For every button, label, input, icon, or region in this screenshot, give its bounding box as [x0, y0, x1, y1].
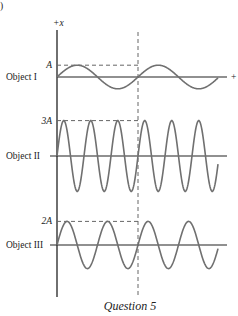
object-label: Object I	[6, 72, 37, 82]
corner-mark: )	[0, 1, 3, 12]
amplitude-label: 3A	[40, 116, 52, 126]
object-label: Object II	[6, 151, 40, 161]
oscillation-diagram: ) +x AObject I3AObject II2AObject III + …	[0, 0, 238, 316]
object-graph-2: 3AObject II	[6, 116, 227, 192]
object-graph-1: AObject I	[6, 60, 227, 89]
horizontal-axis-label: +	[231, 72, 236, 82]
amplitude-label: 2A	[41, 216, 52, 226]
object-label: Object III	[6, 240, 43, 250]
amplitude-label: A	[45, 60, 52, 70]
vertical-axis-label: +x	[53, 18, 64, 28]
caption: Question 5	[104, 299, 156, 313]
object-graph-3: 2AObject III	[6, 216, 227, 268]
